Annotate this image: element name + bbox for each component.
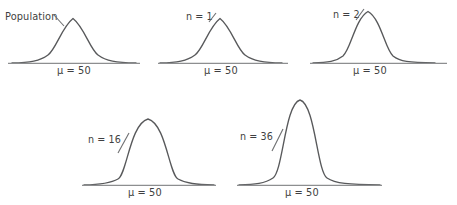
sample-size-label-n16: n = 16 [88, 135, 121, 145]
figure-canvas: Population μ = 50 n = 1 μ = 50 n = 2 μ =… [0, 0, 457, 205]
mu-label-n16: μ = 50 [128, 188, 162, 198]
mu-label-n36: μ = 50 [285, 188, 319, 198]
bell-curve-n36 [239, 100, 380, 185]
mu-label-population: μ = 50 [57, 66, 91, 76]
panel-n1: n = 1 μ = 50 [150, 0, 300, 85]
population-label: Population [5, 12, 57, 22]
panel-population: Population μ = 50 [0, 0, 150, 85]
n16-leader-line [118, 131, 134, 157]
mu-label-n2: μ = 50 [353, 66, 387, 76]
n2-leader-line [356, 7, 370, 25]
n1-leader-line [209, 11, 223, 27]
bell-curve-population [12, 19, 136, 64]
panel-n16: n = 16 μ = 50 [70, 95, 230, 205]
mu-label-n1: μ = 50 [204, 66, 238, 76]
panel-n36: n = 36 μ = 50 [225, 95, 400, 205]
sample-size-label-n36: n = 36 [240, 132, 273, 142]
panel-n2: n = 2 μ = 50 [300, 0, 457, 85]
population-leader-line [54, 12, 68, 28]
bell-curve-n2 [313, 12, 435, 64]
n36-leader-line [272, 127, 288, 155]
bell-curve-n16 [84, 119, 214, 185]
